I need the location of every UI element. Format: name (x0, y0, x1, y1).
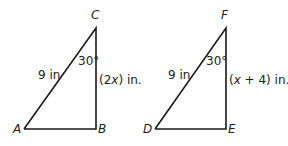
vertex-a-label: A (12, 122, 21, 136)
hypotenuse-ac-label: 9 in (38, 68, 60, 82)
triangle-abc: C A B 30° 9 in (2x) in. (12, 8, 142, 136)
vertex-f-label: F (221, 8, 229, 22)
triangle-def: F D E 30° 9 in (x + 4) in. (143, 8, 288, 136)
angle-f-label: 30° (206, 54, 227, 68)
side-ef-label: (x + 4) in. (229, 73, 288, 87)
vertex-d-label: D (143, 122, 152, 136)
diagram: C A B 30° 9 in (2x) in. F D E 30° 9 in (… (0, 0, 288, 146)
vertex-e-label: E (228, 122, 236, 136)
vertex-b-label: B (98, 122, 106, 136)
side-bc-label: (2x) in. (99, 73, 142, 87)
hypotenuse-df-label: 9 in (168, 68, 190, 82)
vertex-c-label: C (91, 8, 100, 22)
angle-c-label: 30° (78, 54, 99, 68)
